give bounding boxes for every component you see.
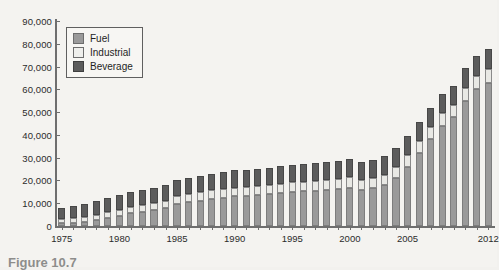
bar-1990[interactable] xyxy=(231,170,238,226)
bar-segment-fuel xyxy=(185,202,192,226)
bar-segment-industrial xyxy=(150,203,157,210)
bar-segment-industrial xyxy=(462,88,469,101)
y-axis-tick-label: 60,000 xyxy=(22,84,52,95)
x-axis-tick-mark xyxy=(408,226,409,230)
bar-segment-beverage xyxy=(185,178,192,194)
bar-segment-fuel xyxy=(162,208,169,226)
bar-segment-fuel xyxy=(243,196,250,226)
x-axis-tick-mark xyxy=(281,226,282,230)
bar-segment-fuel xyxy=(116,216,123,226)
bar-2007[interactable] xyxy=(427,108,434,226)
y-axis-tick-label: 80,000 xyxy=(22,38,52,49)
x-axis-tick-mark xyxy=(292,226,293,230)
bar-1997[interactable] xyxy=(312,163,319,226)
x-axis-tick-mark xyxy=(131,226,132,230)
bar-1993[interactable] xyxy=(266,168,273,226)
bar-1980[interactable] xyxy=(116,195,123,226)
bar-2003[interactable] xyxy=(381,156,388,226)
x-axis-tick-mark xyxy=(73,226,74,230)
bar-segment-fuel xyxy=(439,126,446,226)
bar-1983[interactable] xyxy=(150,188,157,226)
x-axis-tick-mark xyxy=(419,226,420,230)
bar-1986[interactable] xyxy=(185,178,192,226)
bar-1995[interactable] xyxy=(289,165,296,226)
x-axis-tick-label: 1990 xyxy=(224,233,245,244)
bar-segment-beverage xyxy=(173,180,180,196)
bar-1994[interactable] xyxy=(277,166,284,226)
bar-1982[interactable] xyxy=(139,190,146,226)
bar-segment-beverage xyxy=(197,176,204,192)
bar-1976[interactable] xyxy=(70,206,77,226)
bar-segment-fuel xyxy=(139,212,146,226)
bar-1991[interactable] xyxy=(243,170,250,226)
bar-segment-industrial xyxy=(473,76,480,89)
bar-1979[interactable] xyxy=(104,198,111,226)
legend-item-beverage: Beverage xyxy=(73,61,133,72)
y-axis-tick-label: 10,000 xyxy=(22,198,52,209)
y-axis-tick-mark xyxy=(55,135,60,136)
bar-2010[interactable] xyxy=(462,68,469,226)
bar-1985[interactable] xyxy=(173,180,180,226)
bar-1977[interactable] xyxy=(81,204,88,226)
bar-1996[interactable] xyxy=(300,164,307,226)
bar-1999[interactable] xyxy=(335,161,342,226)
bar-1984[interactable] xyxy=(162,185,169,226)
bar-segment-industrial xyxy=(450,105,457,117)
bar-2005[interactable] xyxy=(404,136,411,226)
bar-segment-beverage xyxy=(127,192,134,207)
x-axis-tick-mark xyxy=(258,226,259,230)
bar-2001[interactable] xyxy=(358,162,365,226)
bar-segment-industrial xyxy=(220,189,227,198)
bar-2000[interactable] xyxy=(346,159,353,226)
bar-2009[interactable] xyxy=(450,86,457,226)
y-axis-tick-mark xyxy=(55,44,60,45)
bar-1988[interactable] xyxy=(208,174,215,226)
x-axis-tick-label: 1975 xyxy=(51,233,72,244)
bar-1992[interactable] xyxy=(254,169,261,226)
bar-segment-fuel xyxy=(254,195,261,226)
y-axis-tick-mark xyxy=(55,180,60,181)
bar-1975[interactable] xyxy=(58,208,65,226)
bar-segment-fuel xyxy=(392,178,399,226)
bar-segment-beverage xyxy=(150,188,157,203)
bar-2004[interactable] xyxy=(392,148,399,226)
x-axis-tick-mark xyxy=(166,226,167,230)
x-axis-tick-label: 2005 xyxy=(397,233,418,244)
x-axis-tick-mark xyxy=(431,226,432,230)
bar-2008[interactable] xyxy=(439,94,446,226)
bar-segment-fuel xyxy=(404,167,411,226)
x-axis-tick-mark xyxy=(361,226,362,230)
bar-2011[interactable] xyxy=(473,56,480,226)
bar-segment-beverage xyxy=(104,198,111,212)
bar-segment-beverage xyxy=(427,108,434,128)
bar-segment-fuel xyxy=(346,188,353,226)
bar-segment-beverage xyxy=(231,170,238,187)
x-axis-tick-mark xyxy=(223,226,224,230)
x-axis-tick-mark xyxy=(350,226,351,230)
bar-segment-beverage xyxy=(116,195,123,210)
bar-segment-fuel xyxy=(335,189,342,226)
bar-1987[interactable] xyxy=(197,176,204,226)
x-axis-tick-label: 1985 xyxy=(166,233,187,244)
bar-1989[interactable] xyxy=(220,172,227,226)
bar-segment-fuel xyxy=(416,153,423,226)
x-axis-tick-mark xyxy=(396,226,397,230)
bar-segment-beverage xyxy=(381,156,388,175)
bar-1981[interactable] xyxy=(127,192,134,226)
bar-segment-beverage xyxy=(335,161,342,179)
bar-segment-beverage xyxy=(289,165,296,183)
bar-2012[interactable] xyxy=(485,49,492,226)
bar-2006[interactable] xyxy=(416,122,423,226)
figure-caption: Figure 10.7 xyxy=(8,255,77,270)
bar-segment-beverage xyxy=(254,169,261,186)
bar-1978[interactable] xyxy=(93,201,100,226)
x-axis-tick-mark xyxy=(488,226,489,230)
bar-segment-fuel xyxy=(427,139,434,226)
x-axis-tick-mark xyxy=(62,226,63,230)
bar-1998[interactable] xyxy=(323,162,330,226)
bar-segment-beverage xyxy=(323,162,330,180)
x-axis-line xyxy=(55,226,495,228)
bar-2002[interactable] xyxy=(369,160,376,226)
x-axis-tick-mark xyxy=(189,226,190,230)
